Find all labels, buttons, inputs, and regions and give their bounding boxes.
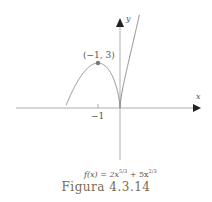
x-axis-arrow-icon [193, 104, 201, 112]
formula-mid: + 5x [127, 170, 148, 179]
tick-label-minus-one: −1 [91, 111, 104, 121]
function-curve [66, 15, 139, 108]
formula-exp2: 2/3 [149, 168, 157, 174]
formula-f: f(x) = 2x [84, 170, 119, 179]
formula: f(x) = 2x5/3 + 5x2/3 [84, 168, 157, 179]
y-axis-arrow-icon [116, 18, 124, 27]
formula-exp1: 5/3 [119, 168, 127, 174]
local-max-point [96, 61, 100, 65]
point-label: (−1, 3) [83, 50, 115, 60]
figure-caption: Figura 4.3.14 [0, 180, 212, 194]
x-axis-label: x [196, 92, 201, 101]
y-axis-label: y [126, 14, 131, 23]
